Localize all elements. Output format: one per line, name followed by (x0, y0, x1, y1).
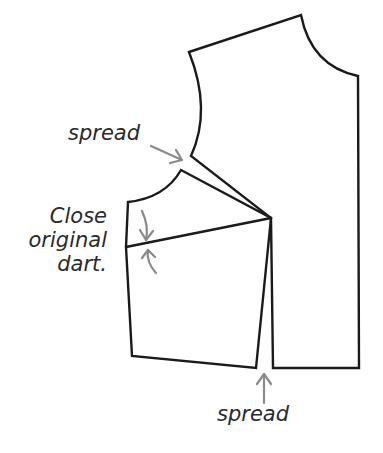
close-dart-label-line1: Close (50, 204, 107, 228)
spread-top-label: spread (68, 121, 140, 145)
spread-bottom-arrow (257, 374, 271, 403)
close-dart-label-line2: original (29, 228, 108, 252)
close-dart-label-line3: dart. (57, 252, 107, 276)
spread-top-arrow (151, 146, 182, 163)
close-dart-arrow-lower (142, 250, 156, 273)
pattern-diagram: spread Close original dart. spread (0, 0, 383, 453)
main-bodice-piece (189, 15, 359, 368)
spread-bottom-label: spread (217, 402, 289, 426)
close-dart-arrow-upper (140, 211, 153, 240)
